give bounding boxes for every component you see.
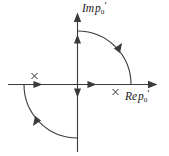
contour-diagram: Im p0′ Re p0′ — [0, 0, 169, 156]
imaginary-axis-arrowhead — [75, 14, 81, 22]
real-axis-direction-arrow-left — [34, 82, 41, 87]
real-axis-label-prefix: Re — [125, 90, 137, 102]
arc-quadrant-one — [78, 31, 132, 85]
real-axis-label-prime: ′ — [147, 88, 149, 99]
imaginary-axis-label-prefix: Im — [82, 2, 94, 14]
imaginary-axis-direction-arrow-upper — [75, 36, 80, 43]
arc-quadrant-one-arrowhead — [115, 44, 122, 52]
imaginary-axis-label-variable: p — [95, 2, 101, 14]
real-axis-label-variable: p — [138, 90, 144, 102]
real-axis-direction-arrow-right — [88, 82, 95, 87]
arc-quadrant-three-arrowhead — [34, 117, 41, 125]
complex-plane-plot — [0, 0, 169, 156]
real-axis-label: Re p0′ — [125, 90, 150, 102]
real-axis-arrowhead — [149, 82, 157, 88]
imaginary-axis-label: Im p0′ — [82, 2, 107, 14]
arc-quadrant-three — [24, 85, 78, 139]
imaginary-axis-label-prime: ′ — [104, 0, 106, 11]
imaginary-axis-direction-arrow-lower — [75, 89, 80, 96]
